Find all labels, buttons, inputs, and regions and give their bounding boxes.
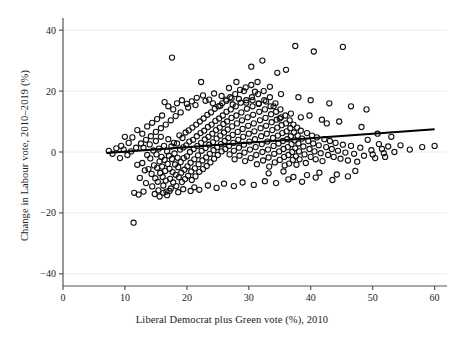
data-point (266, 155, 271, 160)
data-point (259, 134, 264, 139)
data-point (237, 153, 242, 158)
data-point (329, 146, 334, 151)
data-point (226, 85, 231, 90)
data-point (261, 158, 266, 163)
data-point (270, 128, 275, 133)
data-point (143, 137, 148, 142)
data-point (234, 79, 239, 84)
data-point (179, 170, 184, 175)
data-point (252, 129, 257, 134)
data-point (130, 135, 135, 140)
data-point (355, 159, 360, 164)
data-point (240, 180, 245, 185)
x-tick-label: 60 (430, 292, 440, 303)
data-point (327, 101, 332, 106)
data-point (246, 131, 251, 136)
x-tick-label: 50 (368, 292, 378, 303)
data-point (420, 145, 425, 150)
data-point (235, 129, 240, 134)
x-tick-label: 0 (61, 292, 66, 303)
data-point (340, 142, 345, 147)
data-point (296, 149, 301, 154)
data-point (338, 156, 343, 161)
data-point (320, 159, 325, 164)
data-point (236, 137, 241, 142)
data-point (160, 113, 165, 118)
data-point (303, 160, 308, 165)
data-point (267, 164, 272, 169)
data-point (407, 147, 412, 152)
data-point (333, 140, 338, 145)
data-point (126, 140, 131, 145)
data-point (311, 141, 316, 146)
data-point (348, 143, 353, 148)
data-point (283, 67, 288, 72)
data-point (317, 170, 322, 175)
data-point (313, 157, 318, 162)
data-point (254, 152, 259, 157)
data-point (195, 153, 200, 158)
data-point (210, 101, 215, 106)
y-tick-label: 40 (46, 25, 56, 36)
data-point (361, 153, 366, 158)
data-point (298, 128, 303, 133)
data-point (159, 154, 164, 159)
data-point (145, 124, 150, 129)
data-point (275, 70, 280, 75)
data-point (143, 181, 148, 186)
data-point (150, 184, 155, 189)
data-point (205, 183, 210, 188)
data-point (148, 156, 153, 161)
data-point (231, 148, 236, 153)
data-point (262, 179, 267, 184)
data-point (389, 134, 394, 139)
data-point (135, 128, 140, 133)
data-point (277, 116, 282, 121)
data-point (152, 191, 157, 196)
y-tick-label: 20 (46, 86, 56, 97)
data-point (254, 162, 259, 167)
y-tick-label: −40 (40, 268, 56, 279)
data-point (324, 121, 329, 126)
data-point (258, 126, 263, 131)
x-tick-label: 10 (120, 292, 130, 303)
data-point (174, 184, 179, 189)
data-point (257, 118, 262, 123)
data-point (364, 107, 369, 112)
data-point (135, 162, 140, 167)
data-point (398, 143, 403, 148)
data-point (324, 145, 329, 150)
data-point (179, 180, 184, 185)
data-point (251, 121, 256, 126)
data-point (345, 174, 350, 179)
data-point (147, 142, 152, 147)
data-point (252, 137, 257, 142)
data-point (353, 168, 358, 173)
data-point (214, 185, 219, 190)
data-point (359, 124, 364, 129)
y-axis-title: Change in Labour vote, 2010–2019 (%) (19, 46, 30, 266)
data-point (243, 159, 248, 164)
data-point (173, 114, 178, 119)
data-point (212, 91, 217, 96)
y-tick-label: 0 (51, 147, 56, 158)
data-point (182, 167, 187, 172)
data-point (291, 174, 296, 179)
data-point (293, 43, 298, 48)
data-point (236, 145, 241, 150)
data-point (304, 173, 309, 178)
data-point (242, 150, 247, 155)
data-point (150, 120, 155, 125)
data-point (300, 179, 305, 184)
data-point (250, 104, 255, 109)
data-point (193, 174, 198, 179)
data-point (247, 147, 252, 152)
data-point (251, 112, 256, 117)
data-point (137, 175, 142, 180)
data-point (231, 184, 236, 189)
data-point (253, 145, 258, 150)
data-point (171, 107, 176, 112)
data-point (245, 115, 250, 120)
data-point (240, 126, 245, 131)
data-point (288, 111, 293, 116)
